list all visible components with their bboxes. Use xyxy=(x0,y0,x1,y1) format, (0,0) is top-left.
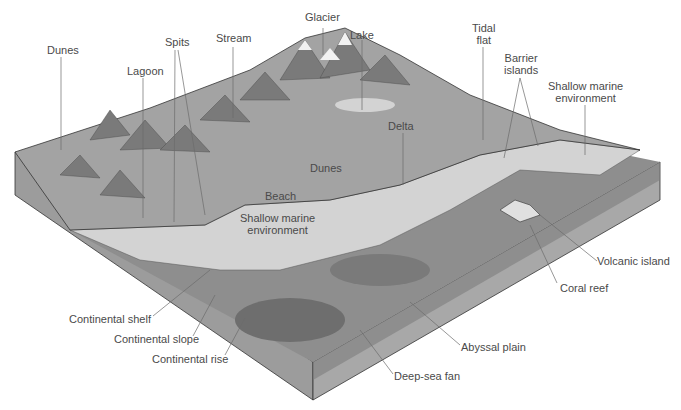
label-coral-reef: Coral reef xyxy=(560,282,608,294)
label-stream: Stream xyxy=(216,32,251,44)
label-tidal-flat-line2: flat xyxy=(472,34,495,46)
label-continental-rise: Continental rise xyxy=(152,353,228,365)
label-continental-slope: Continental slope xyxy=(114,333,199,345)
label-shallow-marine-right-line2: environment xyxy=(548,92,623,104)
label-continental-shelf: Continental shelf xyxy=(69,313,151,325)
label-lagoon: Lagoon xyxy=(127,65,164,77)
block-diagram xyxy=(0,0,681,410)
deep-sea-fan-area xyxy=(235,298,345,342)
label-deep-sea-fan: Deep-sea fan xyxy=(394,370,460,382)
label-shallow-marine-center: Shallow marine environment xyxy=(240,212,315,236)
label-barrier-islands: Barrier islands xyxy=(504,52,538,76)
label-beach: Beach xyxy=(265,190,296,202)
label-shallow-marine-center-line2: environment xyxy=(240,224,315,236)
label-volcanic-island: Volcanic island xyxy=(597,255,670,267)
label-dunes-land: Dunes xyxy=(47,44,79,56)
label-tidal-flat-line1: Tidal xyxy=(472,22,495,34)
label-shallow-marine-right-line1: Shallow marine xyxy=(548,80,623,92)
label-barrier-islands-line2: islands xyxy=(504,64,538,76)
lake xyxy=(335,98,395,112)
label-spits: Spits xyxy=(165,36,189,48)
label-barrier-islands-line1: Barrier xyxy=(504,52,538,64)
abyssal-patch xyxy=(330,254,430,286)
label-lake: Lake xyxy=(350,29,374,41)
label-shallow-marine-center-line1: Shallow marine xyxy=(240,212,315,224)
label-shallow-marine-right: Shallow marine environment xyxy=(548,80,623,104)
label-dunes-coast: Dunes xyxy=(310,162,342,174)
label-delta: Delta xyxy=(388,120,414,132)
label-abyssal-plain: Abyssal plain xyxy=(461,341,526,353)
label-glacier: Glacier xyxy=(305,11,340,23)
label-tidal-flat: Tidal flat xyxy=(472,22,495,46)
